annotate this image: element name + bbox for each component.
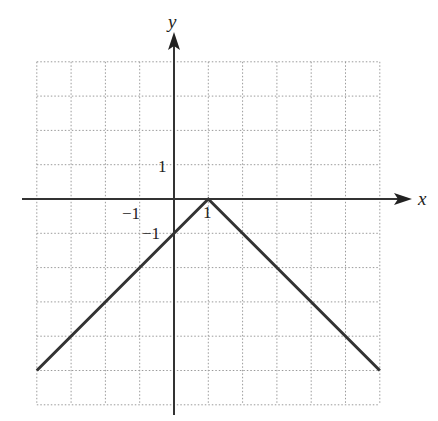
x-tick-label-neg1: −1 [122, 204, 140, 223]
x-axis-label: x [417, 188, 427, 209]
y-axis-label: y [166, 11, 177, 32]
graph-canvas: x y −1 1 1 −1 [0, 0, 438, 421]
grid [37, 62, 380, 405]
x-tick-label-1: 1 [203, 203, 212, 222]
function-graph-line [37, 199, 380, 371]
y-tick-label-1: 1 [158, 157, 167, 176]
y-tick-label-neg1: −1 [142, 224, 160, 243]
